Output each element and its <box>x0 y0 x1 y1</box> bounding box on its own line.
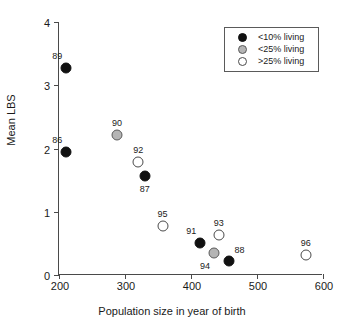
data-point <box>300 249 311 260</box>
y-tick: 1 <box>54 212 59 213</box>
y-axis-title: Mean LBS <box>5 50 17 190</box>
data-point-label: 93 <box>214 219 224 228</box>
legend-item: <10% living <box>230 32 313 43</box>
legend-item-label: <25% living <box>258 45 304 54</box>
data-point <box>223 256 234 267</box>
legend: <10% living<25% living>25% living <box>224 27 319 72</box>
data-point <box>195 238 206 249</box>
data-point-label: 92 <box>133 146 143 155</box>
x-tick: 500 <box>257 274 258 279</box>
legend-item-label: <10% living <box>258 33 304 42</box>
data-point-label: 94 <box>200 261 210 270</box>
x-tick: 200 <box>59 274 60 279</box>
data-point <box>133 157 144 168</box>
data-point-label: 89 <box>52 51 62 60</box>
data-point <box>213 230 224 241</box>
legend-marker-icon <box>238 33 247 42</box>
legend-item: <25% living <box>230 44 313 55</box>
y-tick-label: 0 <box>44 271 50 282</box>
data-point <box>157 220 168 231</box>
data-point-label: 86 <box>52 135 62 144</box>
x-tick: 400 <box>191 274 192 279</box>
legend-item-label: >25% living <box>258 57 304 66</box>
scatter-chart: 01234 200300400500600 898690928795919394… <box>0 0 344 330</box>
x-tick-label: 600 <box>315 281 333 292</box>
y-tick-label: 4 <box>44 18 50 29</box>
x-tick-label: 200 <box>51 281 69 292</box>
x-tick: 300 <box>125 274 126 279</box>
y-tick: 4 <box>54 22 59 23</box>
data-point <box>61 62 72 73</box>
y-tick: 3 <box>54 85 59 86</box>
legend-marker-icon <box>238 45 247 54</box>
data-point <box>112 129 123 140</box>
data-point-label: 87 <box>140 185 150 194</box>
x-tick: 600 <box>323 274 324 279</box>
data-point <box>61 146 72 157</box>
data-point-label: 88 <box>235 246 245 255</box>
x-axis-title: Population size in year of birth <box>0 305 344 317</box>
data-point <box>209 247 220 258</box>
y-tick-label: 1 <box>44 207 50 218</box>
data-point-label: 90 <box>112 118 122 127</box>
data-point-label: 91 <box>186 227 196 236</box>
legend-item: >25% living <box>230 56 313 67</box>
x-tick-label: 500 <box>249 281 267 292</box>
x-tick-label: 400 <box>183 281 201 292</box>
y-tick-label: 2 <box>44 144 50 155</box>
data-point-label: 95 <box>158 209 168 218</box>
data-point <box>139 171 150 182</box>
legend-marker-icon <box>238 57 247 66</box>
y-tick-label: 3 <box>44 81 50 92</box>
x-tick-label: 300 <box>117 281 135 292</box>
data-point-label: 96 <box>301 238 311 247</box>
y-tick: 2 <box>54 149 59 150</box>
